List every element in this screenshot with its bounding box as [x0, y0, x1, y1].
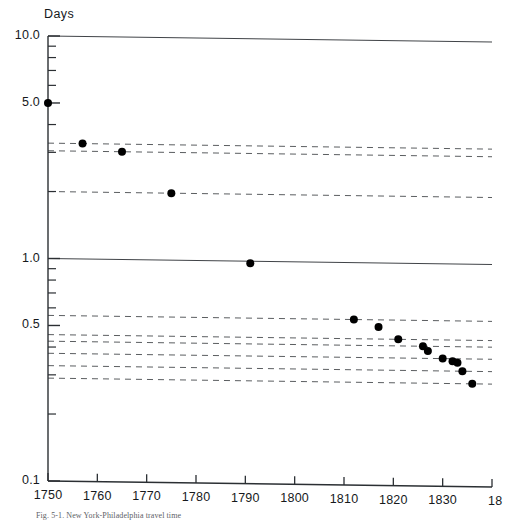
reference-line-dashed [48, 192, 492, 198]
data-point: 1830 - 0.375 days [439, 355, 447, 363]
reference-line-dashed [48, 366, 492, 372]
data-point: 1821 - 0.455 days [394, 335, 402, 343]
x-tick-label: 1830 [419, 493, 467, 507]
x-tick-label: 1780 [172, 490, 220, 504]
y-axis-title: Days [44, 7, 74, 21]
reference-line-dashed [48, 353, 492, 359]
data-point: 1775 - 2.0 days [167, 189, 175, 197]
x-tick-label: 1790 [221, 491, 269, 505]
reference-line-dashed [48, 315, 492, 321]
data-point: 1812 - 0.555 days [350, 316, 358, 324]
x-tick-label: 1750 [24, 488, 72, 502]
x-tick-label: 1810 [320, 492, 368, 506]
y-tick-label: 5.0 [0, 95, 40, 109]
x-tick-label: 1760 [73, 489, 121, 503]
reference-line-solid [48, 259, 492, 265]
y-tick-label: 1.0 [0, 251, 40, 265]
data-point: 1757 - 3.3 days [79, 140, 87, 148]
x-tick-label: 1820 [369, 493, 417, 507]
data-point: 1834 - 0.330 days [458, 367, 466, 375]
data-point: 1765 - 3.05 days [118, 148, 126, 156]
grid-lines-group [48, 36, 492, 384]
reference-line-dashed [48, 335, 492, 341]
reference-line-dashed [48, 378, 492, 384]
data-point: 1817 - 0.515 days [375, 323, 383, 331]
y-tick-label: 0.1 [0, 473, 40, 487]
figure-caption: Fig. 5-1. New York-Philadelphia travel t… [36, 511, 476, 523]
data-point: 1750 - 5.0 days [44, 99, 52, 107]
data-point: 1833 - 0.360 days [453, 359, 461, 367]
x-axis-line [48, 481, 492, 487]
y-tick-label: 0.5 [0, 317, 40, 331]
y-tick-label: 10.0 [0, 28, 40, 42]
data-point: 1791 - 0.98 days [246, 259, 254, 267]
x-tick-label: 1770 [123, 489, 171, 503]
data-point: 1827 - 0.405 days [424, 347, 432, 355]
x-tick-label: 18 [488, 494, 507, 508]
reference-line-dashed [48, 143, 492, 149]
data-point: 1836 - 0.290 days [468, 380, 476, 388]
x-tick-label: 1800 [271, 491, 319, 505]
reference-line-solid [48, 36, 492, 42]
reference-line-dashed [48, 151, 492, 157]
